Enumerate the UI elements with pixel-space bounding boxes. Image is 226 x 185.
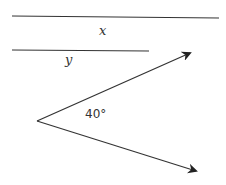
diagram-canvas	[0, 0, 226, 185]
line-y	[12, 50, 149, 51]
upper-ray-arrow	[37, 53, 190, 121]
angle-label: 40°	[85, 108, 106, 120]
label-y: y	[65, 53, 72, 66]
line-x	[12, 16, 219, 18]
lower-ray-arrow	[37, 121, 196, 171]
label-x: x	[99, 24, 106, 37]
